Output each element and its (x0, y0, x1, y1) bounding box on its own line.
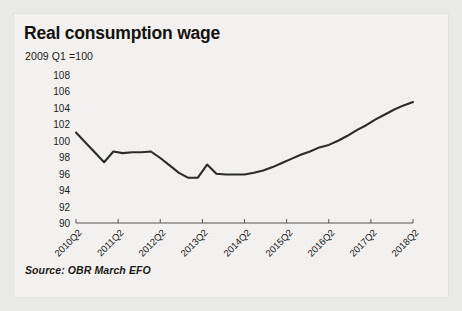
y-axis-tick-label: 96 (44, 168, 70, 179)
y-axis-tick-label: 108 (44, 70, 70, 81)
y-axis-tick-label: 92 (44, 201, 70, 212)
y-axis-tick-label: 102 (44, 119, 70, 130)
x-axis-ticks (76, 219, 413, 223)
y-axis-tick-label: 94 (44, 185, 70, 196)
chart-source: Source: OBR March EFO (25, 264, 151, 276)
y-axis-tick-label: 106 (44, 86, 70, 97)
y-axis-tick-label: 98 (44, 152, 70, 163)
y-axis-tick-label: 90 (44, 218, 70, 229)
data-line-real-consumption-wage (76, 102, 413, 178)
chart-card: Real consumption wage 2009 Q1 =100 90929… (14, 14, 448, 297)
chart-plot-area: 9092949698100102104106108 2010Q22011Q220… (14, 14, 448, 297)
y-axis-tick-label: 100 (44, 135, 70, 146)
y-axis-tick-label: 104 (44, 102, 70, 113)
